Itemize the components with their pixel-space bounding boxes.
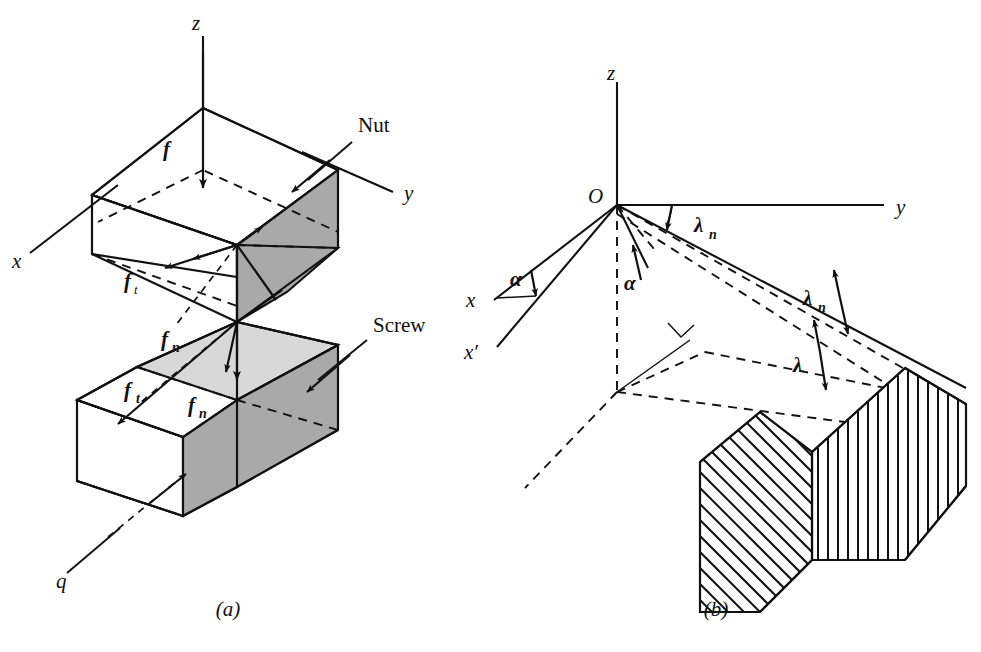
load-q-label: q xyxy=(56,569,67,593)
angle-alpha-left-label: α xyxy=(510,267,522,291)
panel-b-z-label: z xyxy=(606,61,615,85)
figure-root: z y x Nut Screw f f t f n f t f n q xyxy=(0,0,981,652)
wedge-base-edge-1 xyxy=(617,352,705,392)
angle-alpha-left-symbol: α xyxy=(510,267,522,291)
angle-lambda-symbol: λ xyxy=(792,353,802,377)
force-fn-upper-symbol: f xyxy=(161,327,170,351)
panel-b-x-label: x xyxy=(465,288,476,312)
arrow-lambda-up xyxy=(814,320,820,352)
arrow-lambda-n-mid-down xyxy=(840,298,848,334)
panel-a-group xyxy=(30,36,393,573)
right-angle-marker-b xyxy=(668,323,694,337)
panel-b-caption: (b) xyxy=(704,597,729,621)
angle-lambda-n-top-symbol: λ xyxy=(693,213,703,237)
arrow-lambda-n-top xyxy=(667,205,672,230)
screw-label: Screw xyxy=(373,313,426,337)
panel-b-x-prime-label: x′ xyxy=(463,340,478,364)
technical-figure-svg: z y x Nut Screw f f t f n f t f n q xyxy=(0,0,981,652)
arrow-lambda-down xyxy=(820,352,826,390)
angle-lambda-n-top-subscript: n xyxy=(709,227,717,242)
lower-left-dashed-b xyxy=(525,392,617,488)
arrow-alpha-left xyxy=(531,270,536,296)
screw-body xyxy=(77,322,338,516)
arc-alpha-left xyxy=(497,296,536,298)
ray-lambda-n-solid xyxy=(617,205,966,388)
q-leader-line xyxy=(67,528,120,573)
angle-lambda-n-mid-label: λ n xyxy=(802,286,826,315)
force-fn-lower-subscript: n xyxy=(199,406,207,421)
angle-lambda-n-mid-symbol: λ xyxy=(802,286,812,310)
arrow-lambda-n-mid-up xyxy=(834,270,840,298)
wedge-fold-solid xyxy=(617,340,690,392)
panel-a-z-label: z xyxy=(191,11,200,35)
panel-a-x-label: x xyxy=(11,249,22,273)
panel-b-group xyxy=(494,82,968,650)
nut-label: Nut xyxy=(358,113,390,137)
angle-lambda-n-top-label: λ n xyxy=(693,213,717,242)
panel-b-origin-label: O xyxy=(588,184,603,208)
angle-lambda-label: λ xyxy=(792,353,802,377)
panel-a-y-label: y xyxy=(402,181,414,205)
force-ft-upper-subscript: t xyxy=(134,282,138,297)
force-fn-upper-subscript: n xyxy=(172,340,180,355)
angle-alpha-center-symbol: α xyxy=(624,271,636,295)
angle-lambda-n-mid-subscript: n xyxy=(818,300,826,315)
angle-alpha-center-label: α xyxy=(624,271,636,295)
panel-b-y-label: y xyxy=(894,195,906,219)
panel-a-caption: (a) xyxy=(216,597,241,621)
